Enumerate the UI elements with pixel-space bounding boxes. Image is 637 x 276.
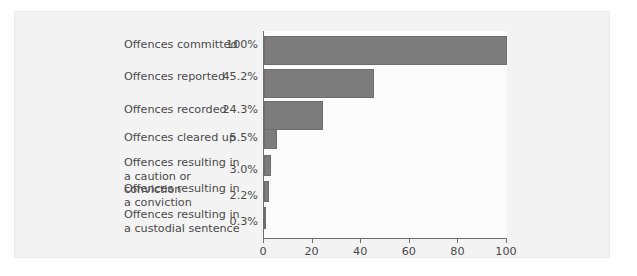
bar	[264, 101, 323, 130]
bar	[264, 155, 271, 176]
x-axis-tick	[506, 239, 507, 243]
bar-value-label: 0.3%	[198, 215, 258, 229]
x-axis-tick	[360, 239, 361, 243]
bar-value-label: 2.2%	[198, 189, 258, 203]
x-axis-tick-label: 40	[340, 245, 380, 259]
x-axis-tick	[312, 239, 313, 243]
x-axis-tick-label: 60	[389, 245, 429, 259]
bar-value-label: 45.2%	[198, 70, 258, 84]
x-axis-tick-label: 0	[243, 245, 283, 259]
x-axis-tick	[263, 239, 264, 243]
y-axis-line	[263, 31, 264, 238]
x-axis-line	[263, 238, 507, 239]
chart-screenshot: Offences committed100%Offences reported4…	[0, 0, 637, 276]
bar-value-label: 5.5%	[198, 131, 258, 145]
bar	[264, 181, 269, 202]
bar-value-label: 100%	[198, 38, 258, 52]
x-axis-tick	[457, 239, 458, 243]
x-axis-tick-label: 100	[486, 245, 526, 259]
x-axis-tick-label: 20	[292, 245, 332, 259]
x-axis-tick	[409, 239, 410, 243]
bar	[264, 69, 374, 98]
x-axis-tick-label: 80	[437, 245, 477, 259]
bar	[264, 129, 277, 149]
bar-rows: Offences committed100%Offences reported4…	[0, 0, 637, 276]
bar	[264, 36, 507, 65]
bar	[264, 207, 266, 229]
bar-value-label: 3.0%	[198, 163, 258, 177]
bar-value-label: 24.3%	[198, 103, 258, 117]
